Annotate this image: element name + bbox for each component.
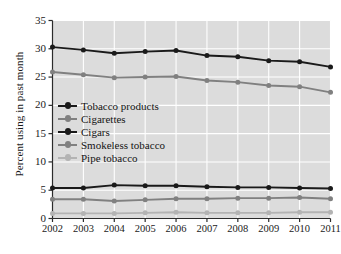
data-point	[266, 185, 271, 190]
data-point	[297, 84, 302, 89]
x-axis-tick-label: 2003	[66, 223, 100, 234]
x-axis-tick-label: 2006	[159, 223, 193, 234]
x-axis-tick-label: 2011	[314, 223, 341, 234]
data-point	[235, 196, 240, 201]
data-point	[204, 78, 209, 83]
data-point	[112, 51, 117, 56]
chart-legend: Tobacco productsCigarettesCigarsSmokeles…	[58, 99, 165, 164]
data-point	[328, 196, 333, 201]
data-point	[143, 210, 148, 215]
data-point	[204, 210, 209, 215]
legend-label: Cigarettes	[81, 113, 126, 125]
legend-label: Smokeless tobacco	[81, 139, 165, 151]
data-point	[112, 183, 117, 188]
legend-item: Cigarettes	[58, 112, 165, 125]
data-point	[266, 210, 271, 215]
x-axis-tick-label: 2004	[97, 223, 131, 234]
data-point	[266, 83, 271, 88]
data-point	[235, 80, 240, 85]
x-axis-tick-label: 2005	[128, 223, 162, 234]
data-point	[174, 48, 179, 53]
data-point	[143, 197, 148, 202]
data-point	[204, 184, 209, 189]
data-point	[81, 47, 86, 52]
data-point	[143, 75, 148, 80]
legend-item: Cigars	[58, 125, 165, 138]
legend-label: Pipe tobacco	[81, 152, 138, 164]
data-point	[81, 185, 86, 190]
data-point	[112, 75, 117, 80]
data-point	[235, 210, 240, 215]
data-point	[50, 211, 55, 216]
data-point	[204, 196, 209, 201]
legend-item: Smokeless tobacco	[58, 138, 165, 151]
data-point	[50, 69, 55, 74]
legend-marker-icon	[58, 139, 77, 150]
data-point	[174, 210, 179, 215]
x-axis-tick-label: 2009	[252, 223, 286, 234]
x-axis-tick-label: 2010	[283, 223, 317, 234]
legend-item: Tobacco products	[58, 99, 165, 112]
data-point	[297, 59, 302, 64]
data-point	[143, 183, 148, 188]
x-axis-tick-label: 2007	[190, 223, 224, 234]
data-point	[297, 185, 302, 190]
data-point	[328, 210, 333, 215]
data-point	[266, 196, 271, 201]
data-point	[328, 186, 333, 191]
data-point	[50, 45, 55, 50]
legend-marker-icon	[58, 152, 77, 163]
chart-plot-area	[0, 0, 341, 254]
data-point	[50, 185, 55, 190]
legend-marker-icon	[58, 100, 77, 111]
legend-marker-icon	[58, 113, 77, 124]
chart-figure: Percent using in past month 051015202530…	[0, 0, 341, 254]
data-point	[235, 185, 240, 190]
data-point	[204, 53, 209, 58]
x-axis-tick-label: 2002	[36, 223, 70, 234]
data-point	[328, 64, 333, 69]
data-point	[81, 211, 86, 216]
legend-marker-icon	[58, 126, 77, 137]
legend-label: Tobacco products	[81, 100, 159, 112]
data-point	[50, 197, 55, 202]
data-point	[112, 198, 117, 203]
legend-label: Cigars	[81, 126, 110, 138]
legend-item: Pipe tobacco	[58, 151, 165, 164]
x-axis-tick-label: 2008	[221, 223, 255, 234]
data-point	[297, 195, 302, 200]
data-point	[81, 197, 86, 202]
data-point	[174, 196, 179, 201]
data-point	[174, 183, 179, 188]
data-point	[266, 58, 271, 63]
x-axis-tick-labels: 2002200320042005200620072008200920102011	[0, 220, 341, 242]
data-point	[143, 49, 148, 54]
data-point	[81, 72, 86, 77]
data-point	[328, 90, 333, 95]
data-point	[112, 211, 117, 216]
data-point	[235, 54, 240, 59]
data-point	[174, 74, 179, 79]
data-point	[297, 210, 302, 215]
